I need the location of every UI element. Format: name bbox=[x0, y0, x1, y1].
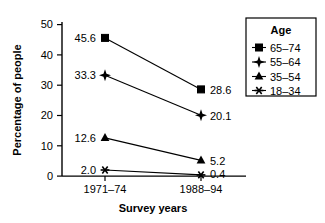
series-35-54-line bbox=[105, 138, 201, 161]
series-55-64-value-label-1: 33.3 bbox=[75, 69, 96, 81]
chart-canvas: Percentage of people 50 40 30 20 bbox=[0, 0, 325, 223]
line-chart: Percentage of people 50 40 30 20 bbox=[0, 0, 325, 223]
y-tick-label-0: 0 bbox=[47, 170, 53, 182]
series-65-74-marker-1 bbox=[102, 34, 109, 41]
series-55-64-value-label-2: 20.1 bbox=[210, 110, 231, 122]
series-35-54-value-label-2: 5.2 bbox=[210, 155, 225, 167]
series-55-64: 33.3 20.1 bbox=[75, 69, 232, 122]
y-tick-label-10: 10 bbox=[41, 140, 53, 152]
series-65-74: 45.6 28.6 bbox=[75, 32, 232, 96]
series-35-54-marker-1 bbox=[101, 133, 110, 141]
y-tick-label-50: 50 bbox=[41, 18, 53, 30]
y-tick-50: 50 bbox=[41, 18, 62, 30]
series-65-74-marker-2 bbox=[198, 86, 205, 93]
x-tick-label-1: 1971–74 bbox=[84, 183, 127, 195]
x-tick-label-2: 1988–94 bbox=[180, 183, 223, 195]
legend: Age 65–74 55–64 35–54 bbox=[246, 18, 316, 97]
series-18-34-line bbox=[105, 170, 201, 175]
series-18-34: 2.0 0.4 bbox=[81, 164, 226, 181]
x-axis: 1971–74 1988–94 Survey years bbox=[62, 176, 246, 214]
series-18-34-value-label-1: 2.0 bbox=[81, 164, 96, 176]
legend-label-55-64: 55–64 bbox=[270, 56, 301, 68]
y-tick-label-20: 20 bbox=[41, 109, 53, 121]
y-tick-label-30: 30 bbox=[41, 79, 53, 91]
x-axis-title: Survey years bbox=[119, 202, 188, 214]
series-65-74-value-label-1: 45.6 bbox=[75, 32, 96, 44]
legend-label-65-74: 65–74 bbox=[270, 42, 301, 54]
legend-label-18-34: 18–34 bbox=[270, 85, 301, 97]
legend-marker-square bbox=[256, 44, 263, 51]
series-35-54: 12.6 5.2 bbox=[75, 132, 226, 167]
legend-item-55-64[interactable]: 55–64 bbox=[252, 56, 301, 68]
y-tick-0: 0 bbox=[47, 170, 62, 182]
series-18-34-value-label-2: 0.4 bbox=[210, 168, 225, 180]
series-35-54-value-label-1: 12.6 bbox=[75, 132, 96, 144]
series-55-64-marker-2 bbox=[195, 109, 207, 121]
series-55-64-marker-1 bbox=[99, 69, 111, 81]
y-axis-title: Percentage of people bbox=[11, 44, 23, 155]
legend-title: Age bbox=[271, 24, 292, 36]
y-tick-10: 10 bbox=[41, 140, 62, 152]
y-tick-30: 30 bbox=[41, 79, 62, 91]
y-axis: 50 40 30 20 10 0 bbox=[41, 18, 62, 182]
series-18-34-marker-1 bbox=[101, 167, 110, 174]
legend-label-35-54: 35–54 bbox=[270, 71, 301, 83]
y-tick-label-40: 40 bbox=[41, 49, 53, 61]
y-tick-40: 40 bbox=[41, 49, 62, 61]
y-tick-20: 20 bbox=[41, 109, 62, 121]
series-65-74-value-label-2: 28.6 bbox=[210, 84, 231, 96]
